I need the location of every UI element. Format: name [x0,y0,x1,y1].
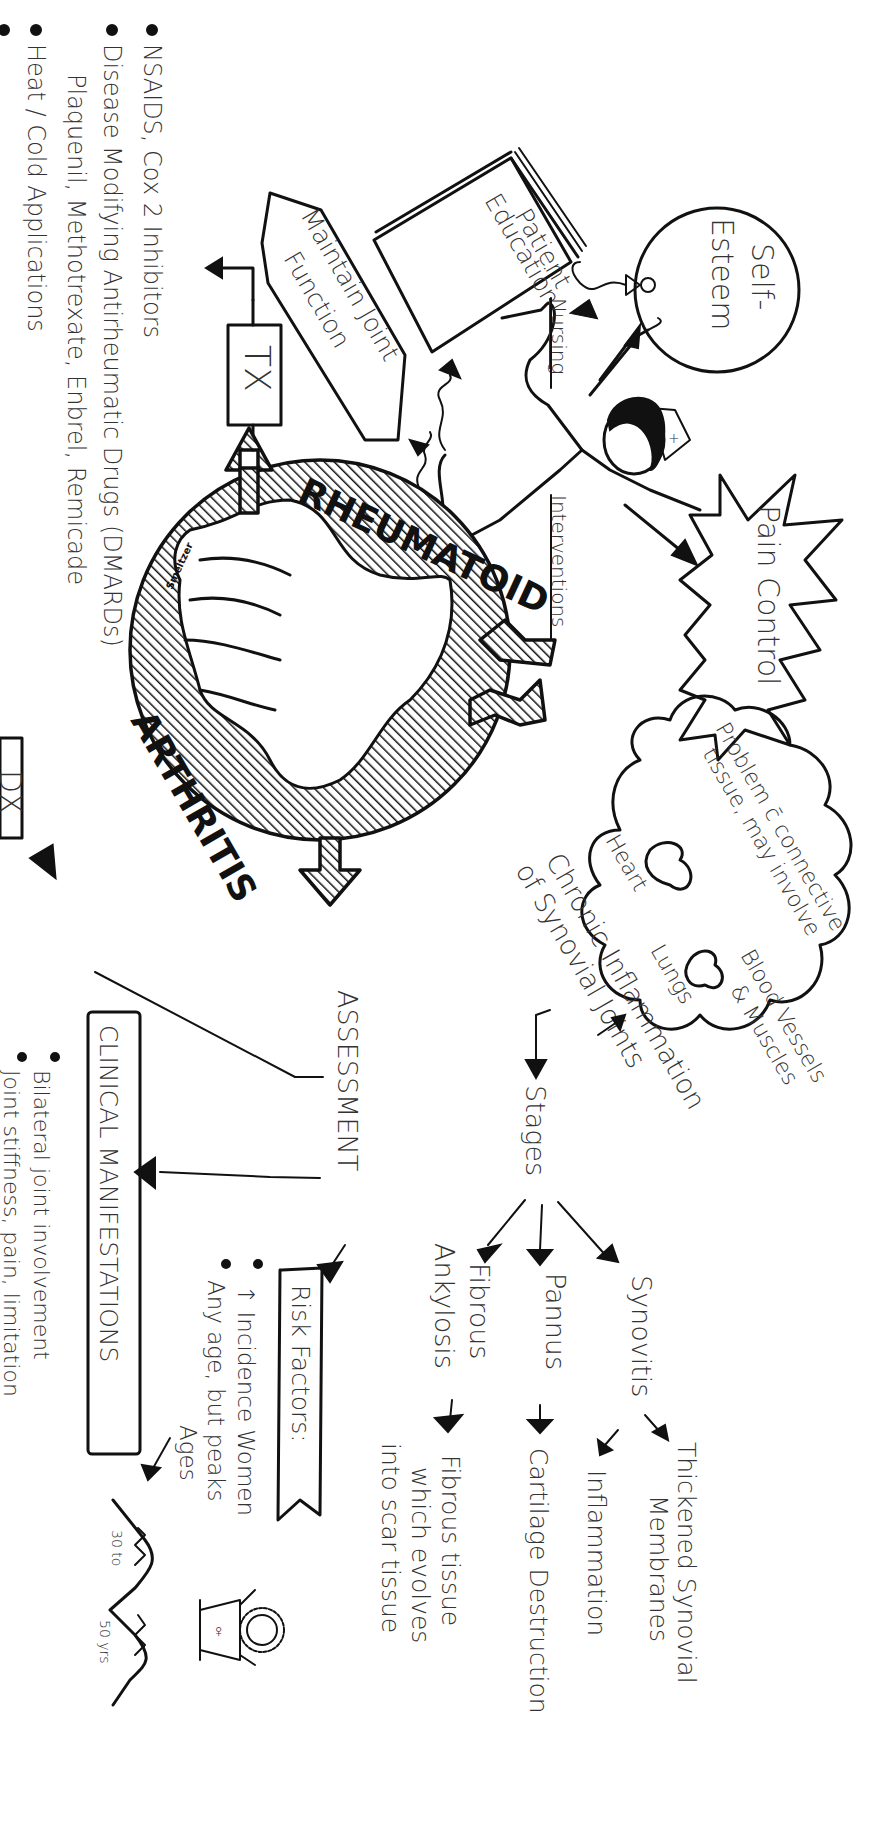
risk-factors-title: Risk Factors: [286,1285,315,1443]
arrow-down-icon [526,1060,546,1078]
pain-control-burst: Pain Control [680,475,842,760]
dx-label: DX [0,770,28,814]
stage-ankylosis: Ankylosis [429,1243,460,1369]
treatment-bullet-2: Disease Modifying Antirheumatic Drugs (D… [98,44,126,647]
nurse-cap-cross-icon: + [668,430,680,446]
concept-map-canvas: NSAIDS, Cox 2 Inhibitors Disease Modifyi… [0,0,872,1842]
self-label: Self- [745,243,780,310]
risk-bullet-2: Any age, but peaks [203,1280,229,1502]
bullet-icon [18,1053,26,1061]
arrow-icon [598,1245,618,1262]
stages-label: Stages [520,1085,551,1176]
bullet-icon [0,25,9,35]
result-membranes: Membranes [644,1495,673,1642]
tx-label: TX [237,345,278,392]
woman-figure-icon: ♀ [200,1590,284,1665]
arrow-icon [570,300,598,319]
arrow-left-icon [206,258,222,278]
arrow-to-tx-icon [226,428,272,470]
ra-globe-icon: RHEUMATOID ARTHRITIS Smeltzer [123,428,555,909]
bullet-icon [51,1053,59,1061]
squiggle-arrow-icon-2 [410,440,428,455]
result-inflammation: Inflammation [582,1470,611,1636]
bullet-icon [254,1260,262,1268]
bullet-icon [107,25,117,35]
arrow-up-right-icon [625,325,640,348]
result-which-evolves: which evolves [406,1467,435,1643]
risk-factors: Risk Factors: ↑ Incidence Women Any age,… [97,1260,322,1705]
esteem-label: Esteem [705,218,740,331]
stages-tree: Stages Synovitis Pannus Fibrous Ankylosi… [376,1085,701,1714]
risk-bullet-1: ↑ Incidence Women [233,1285,259,1516]
maintain-joint-function-banner: Maintain Joint Function [262,193,405,440]
arrow-to-assessment-icon [300,838,360,905]
treatment-bullet-1: NSAIDS, Cox 2 Inhibitors [138,44,166,338]
pain-control-label: Pain Control [751,505,786,685]
clinical-manifestations-title: CLINICAL MANIFESTATIONS [94,1025,123,1362]
arrow-icon [528,1250,552,1265]
arrow-icon [528,1420,552,1433]
stage-pannus: Pannus [540,1273,571,1370]
assessment-label: ASSESSMENT [332,990,363,1171]
cloud-text-line-1: Problem c̄ connective [711,718,851,935]
treatment-bullet-2-detail: Plaquenil, Methotrexate, Enbrel, Remicad… [62,74,90,585]
result-cartilage-destruction: Cartilage Destruction [524,1448,553,1714]
arrow-to-clinical-icon [135,1158,155,1188]
arrow-icon [598,1440,612,1455]
bullet-icon [222,1260,230,1268]
bullet-icon [31,25,41,35]
clinical-bullet-2: Joint stiffness, pain, limitation [0,1070,24,1397]
result-fibrous-tissue: Fibrous tissue [436,1455,465,1626]
arrow-to-dx-icon [30,845,68,884]
clinical-bullet-1: Bilateral joint involvement [29,1070,54,1360]
self-esteem-balloon: Self- Esteem [572,208,799,372]
treatment-list: NSAIDS, Cox 2 Inhibitors Disease Modifyi… [0,25,166,647]
arrow-icon [478,1245,500,1262]
age-start-label: 30 to [109,1530,125,1566]
stage-synovitis: Synovitis [626,1275,657,1397]
result-thickened-synovial: Thickened Synovial [672,1442,701,1684]
stage-fibrous: Fibrous [464,1263,495,1359]
age-end-label: 50 yrs [97,1620,113,1664]
female-symbol-icon: ♀ [212,1620,226,1641]
arrow-down-right-icon [672,540,697,565]
arrow-icon [435,1415,462,1432]
age-peaks-icon: 30 to 50 yrs [97,1438,170,1705]
result-into-scar-tissue: into scar tissue [376,1443,405,1633]
clinical-manifestations: CLINICAL MANIFESTATIONS Bilateral joint … [0,1012,140,1454]
bullet-icon [147,25,157,35]
ages-label: Ages [175,1425,201,1481]
treatment-bullet-3: Heat / Cold Applications [22,44,50,332]
